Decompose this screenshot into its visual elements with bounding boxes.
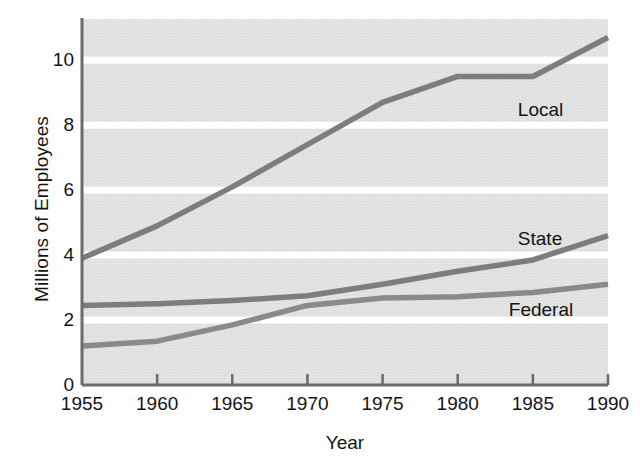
x-tick-label: 1965 bbox=[192, 394, 272, 413]
x-tick-label: 1970 bbox=[267, 394, 347, 413]
series-label-local: Local bbox=[518, 99, 563, 121]
x-tick-label: 1985 bbox=[493, 394, 573, 413]
y-tick-label: 2 bbox=[34, 310, 74, 329]
x-tick-label: 1975 bbox=[343, 394, 423, 413]
series-label-federal: Federal bbox=[509, 299, 573, 321]
y-tick-label: 4 bbox=[34, 245, 74, 264]
plot-background bbox=[82, 18, 608, 385]
x-axis-tick-labels: 19551960196519701975198019851990 bbox=[0, 394, 640, 424]
series-label-state: State bbox=[518, 228, 562, 250]
x-tick-label: 1960 bbox=[117, 394, 197, 413]
y-tick-label: 8 bbox=[34, 115, 74, 134]
x-tick-label: 1980 bbox=[418, 394, 498, 413]
y-tick-label: 10 bbox=[34, 50, 74, 69]
x-tick-label: 1990 bbox=[568, 394, 640, 413]
chart-figure: Millions of Employees 0246810 1955196019… bbox=[0, 0, 640, 474]
x-axis-title: Year bbox=[82, 432, 608, 454]
x-tick-label: 1955 bbox=[42, 394, 122, 413]
y-tick-label: 0 bbox=[34, 375, 74, 394]
y-tick-label: 6 bbox=[34, 180, 74, 199]
